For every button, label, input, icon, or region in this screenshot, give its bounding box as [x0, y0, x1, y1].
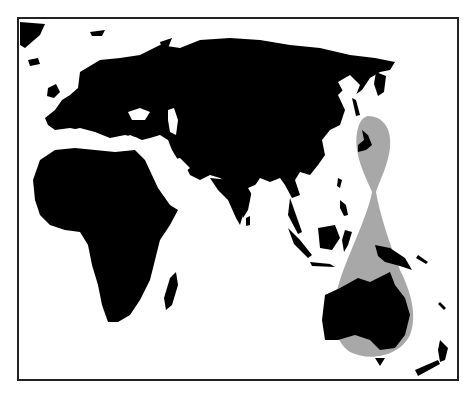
world-map	[0, 0, 476, 395]
